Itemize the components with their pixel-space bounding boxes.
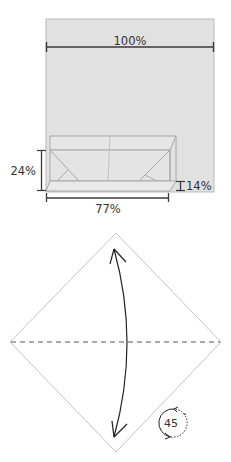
rotate-45-icon: 45 °	[159, 407, 187, 439]
height-dimension-24: 24%	[10, 150, 46, 191]
degree-symbol: °	[183, 412, 187, 420]
step1-box-proportions: 100% 24%	[10, 19, 214, 216]
width-dimension-77: 77%	[46, 193, 169, 216]
label-77-percent: 77%	[95, 202, 121, 216]
box-sketch	[46, 136, 176, 191]
rotation-angle-label: 45	[164, 417, 178, 430]
label-14-percent: 14%	[186, 179, 212, 193]
label-24-percent: 24%	[10, 164, 36, 178]
origami-diagram: 100% 24%	[0, 0, 231, 462]
step2-diamond-fold: 45 °	[10, 233, 221, 452]
label-100-percent: 100%	[114, 34, 147, 48]
